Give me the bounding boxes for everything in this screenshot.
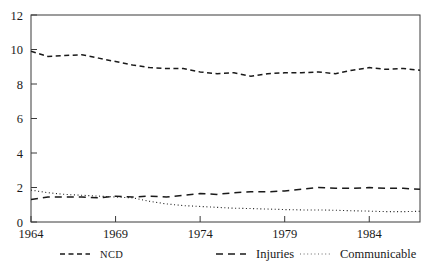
y-tick-label: 6 [17,112,23,126]
y-tick-label: 4 [17,147,24,161]
legend-label-communicable: Communicable [340,247,417,261]
x-tick-label: 1964 [19,227,45,241]
legend-label-injuries: Injuries [256,247,294,261]
line-chart: 024681012 19641969197419791984 NCDInjuri… [0,0,428,272]
legend-label-ncd: NCD [100,249,123,260]
x-tick-label: 1979 [272,227,297,241]
x-tick-label: 1974 [188,227,214,241]
x-tick-label: 1984 [357,227,383,241]
y-tick-label: 2 [17,181,23,195]
y-tick-label: 10 [11,43,24,57]
y-tick-label: 12 [11,9,24,23]
x-tick-label: 1969 [103,227,128,241]
y-tick-label: 8 [17,78,23,92]
